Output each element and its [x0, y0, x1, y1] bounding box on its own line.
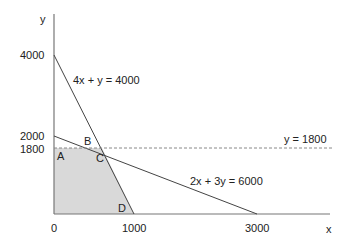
label-2x-plus-3y: 2x + 3y = 6000 — [190, 175, 263, 187]
x-tick-1000: 1000 — [122, 222, 146, 234]
y-axis-label: y — [40, 13, 46, 25]
point-d: D — [118, 202, 126, 214]
y-tick-2000: 2000 — [20, 130, 44, 142]
x-tick-3000: 3000 — [245, 222, 269, 234]
point-a: A — [57, 150, 65, 162]
x-axis-label: x — [326, 223, 332, 235]
point-c: C — [96, 152, 104, 164]
label-4x-plus-y: 4x + y = 4000 — [73, 74, 140, 86]
y-tick-1800: 1800 — [20, 143, 44, 155]
y-tick-4000: 4000 — [20, 49, 44, 61]
feasible-region-diagram: y x 4000 2000 1800 0 1000 3000 4x + y = … — [0, 0, 350, 244]
point-b: B — [84, 135, 91, 147]
label-y-1800: y = 1800 — [284, 133, 327, 145]
x-tick-0: 0 — [51, 222, 57, 234]
